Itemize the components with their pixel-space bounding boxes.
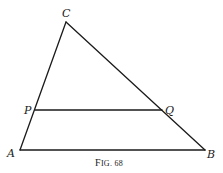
label-b: B xyxy=(206,148,215,161)
label-a: A xyxy=(6,147,15,160)
label-q: Q xyxy=(165,104,174,117)
figure-caption: FIG. 68 xyxy=(95,157,123,168)
caption-rest: IG. 68 xyxy=(101,159,123,168)
label-c: C xyxy=(62,7,71,20)
segment-bc xyxy=(66,22,205,150)
triangle-figure: C P Q A B FIG. 68 xyxy=(0,0,223,173)
segment-ca xyxy=(20,22,66,150)
label-p: P xyxy=(23,104,32,117)
